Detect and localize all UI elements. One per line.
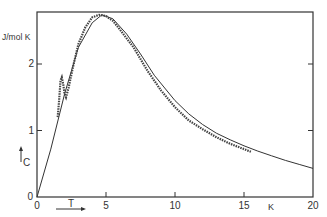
- measured-points: [58, 15, 251, 152]
- data-series: [37, 15, 313, 197]
- axis-ticks: 05101520012: [27, 58, 319, 211]
- x-tick-label: 20: [307, 200, 319, 211]
- plot-frame: [37, 12, 313, 197]
- x-axis-label: T: [68, 198, 74, 209]
- x-tick-label: 15: [238, 200, 250, 211]
- x-tick-label: 10: [169, 200, 181, 211]
- y-tick-label: 1: [28, 125, 34, 136]
- x-unit-label: K: [268, 202, 274, 212]
- y-tick-label: 0: [27, 191, 33, 202]
- y-tick-label: 2: [28, 58, 34, 69]
- x-tick-label: 5: [103, 200, 109, 211]
- y-unit-label: J/mol K: [2, 32, 31, 42]
- y-axis-label: C: [23, 157, 30, 168]
- chart: 05101520012 J/mol K K C T: [0, 0, 327, 217]
- x-tick-label: 0: [34, 200, 40, 211]
